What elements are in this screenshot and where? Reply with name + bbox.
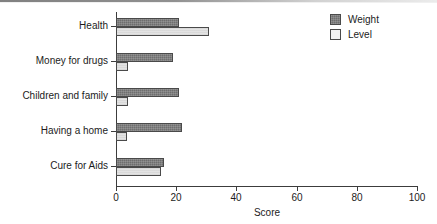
category-label-health: Health [79,19,108,32]
bar-weight-health [116,18,179,27]
category-label-children-and-family: Children and family [22,89,108,102]
x-axis-tick [297,186,298,191]
legend-item-level: Level [330,27,379,42]
x-tick-label-100: 100 [409,192,426,203]
category-label-having-a-home: Having a home [41,124,108,137]
bar-level-cure-for-aids [116,167,161,176]
legend-swatch-weight [330,14,341,25]
scan-edge-artifact-secondary [0,2,437,3]
bar-level-having-a-home [116,132,127,141]
bar-level-money-for-drugs [116,62,128,71]
x-axis-tick [236,186,237,191]
bar-weight-having-a-home [116,123,182,132]
x-tick-label-60: 60 [291,192,302,203]
bar-weight-cure-for-aids [116,158,164,167]
category-label-cure-for-aids: Cure for Aids [50,159,108,172]
x-tick-label-80: 80 [351,192,362,203]
bar-weight-children-and-family [116,88,179,97]
bar-level-children-and-family [116,97,128,106]
chart-legend: Weight Level [330,12,379,42]
legend-label-level: Level [348,29,372,40]
legend-item-weight: Weight [330,12,379,27]
x-axis-tick [116,186,117,191]
category-label-money-for-drugs: Money for drugs [36,54,108,67]
chart-screenshot: Health Money for drugs Children and fami… [0,0,437,224]
x-tick-label-20: 20 [170,192,181,203]
bar-weight-money-for-drugs [116,53,173,62]
x-axis-tick [417,186,418,191]
x-tick-label-40: 40 [230,192,241,203]
x-axis-tick [357,186,358,191]
x-axis-line [116,186,418,187]
bar-level-health [116,27,209,36]
x-axis-title: Score [116,207,418,218]
x-axis-tick [176,186,177,191]
legend-swatch-level [330,29,341,40]
legend-label-weight: Weight [348,14,379,25]
x-tick-label-0: 0 [113,192,119,203]
